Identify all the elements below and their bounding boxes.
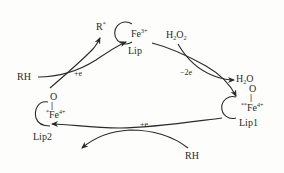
arrow-lip-to-lip1 <box>152 43 236 96</box>
r-text: R <box>96 21 103 32</box>
fe-text: Fe <box>247 102 257 113</box>
h2o2-label: H2O2 <box>166 30 186 40</box>
fe-text: Fe <box>131 28 141 39</box>
arrow-lip2-to-r-radical <box>50 38 100 88</box>
rh-left-label: RH <box>17 72 31 82</box>
r-radical-label: R* <box>96 22 106 32</box>
lip-catalytic-cycle-diagram: R* Fe3+ Lip RH +e H2O2 −2e H2O O || **Fe… <box>0 0 284 173</box>
rh-bottom-label: RH <box>185 151 199 161</box>
plus-e-bottom-label: +e <box>140 120 148 130</box>
lip-enzyme-arc <box>115 22 132 44</box>
fe-charge: 4+ <box>59 109 65 115</box>
fe3-label: Fe3+ <box>131 29 147 39</box>
radical-mark: * <box>103 21 106 27</box>
lip1-fe4-label: **Fe4+ <box>241 103 263 113</box>
lip2-label: Lip2 <box>33 132 52 142</box>
fe-charge: 3+ <box>141 28 147 34</box>
lip2-fe4-label: *Fe4+ <box>46 110 65 120</box>
minus-2e-label: −2e <box>180 68 192 78</box>
sub-2b: 2 <box>183 35 186 41</box>
lip1-enzyme-arc <box>222 97 236 119</box>
plus-e-left-label: +e <box>74 69 82 79</box>
reaction-arrows <box>0 0 284 173</box>
lip1-label: Lip1 <box>239 118 258 128</box>
lip-label: Lip <box>128 46 142 56</box>
arrow-rh-bottom <box>82 130 188 148</box>
fe-text: Fe <box>49 109 59 120</box>
fe-charge: 4+ <box>257 102 263 108</box>
arrow-lip1-to-lip2 <box>52 118 222 128</box>
